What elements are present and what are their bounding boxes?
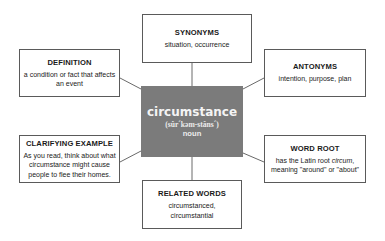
definition-title: DEFINITION (47, 58, 91, 67)
related-words-text: circumstanced, circumstantial (143, 201, 241, 220)
word-root-box: WORD ROOT has the Latin root circum, mea… (264, 135, 366, 183)
synonyms-box: SYNONYMS situation, occurrence (142, 14, 252, 63)
clarifying-example-text: As you read, think about what circumstan… (20, 151, 119, 179)
word-root-title: WORD ROOT (291, 144, 340, 153)
word-root-latin: circum (332, 157, 353, 164)
pronunciation: (sûr´kəm-stăns´) (165, 120, 219, 130)
connector-definition (120, 78, 141, 89)
related-words-box: RELATED WORDS circumstanced, circumstant… (142, 180, 242, 229)
definition-box: DEFINITION a condition or fact that affe… (19, 49, 120, 97)
synonyms-title: SYNONYMS (175, 28, 219, 37)
antonyms-box: ANTONYMS intention, purpose, plan (264, 49, 366, 97)
center-word-box: circumstance (sûr´kəm-stăns´) noun (141, 86, 243, 157)
antonyms-text: intention, purpose, plan (277, 74, 354, 83)
definition-text: a condition or fact that affects an even… (20, 70, 119, 89)
connector-word-root (243, 153, 264, 162)
synonyms-text: situation, occurrence (163, 40, 232, 49)
connector-clarifying-example (120, 151, 141, 162)
related-words-title: RELATED WORDS (158, 189, 226, 198)
clarifying-example-box: CLARIFYING EXAMPLE As you read, think ab… (19, 135, 120, 183)
center-word: circumstance (147, 105, 237, 119)
word-root-text-before: has the Latin root (276, 157, 332, 164)
connector-antonyms (243, 78, 264, 89)
clarifying-example-title: CLARIFYING EXAMPLE (26, 139, 113, 148)
part-of-speech: noun (183, 129, 202, 139)
word-root-text: has the Latin root circum, meaning "arou… (265, 156, 365, 175)
antonyms-title: ANTONYMS (293, 62, 337, 71)
